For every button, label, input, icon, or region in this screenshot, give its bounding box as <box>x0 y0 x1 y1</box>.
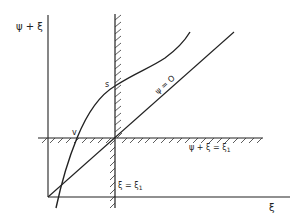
phase-diagram: ψ + ξ ξ s v ψ = O ξ = ξ1 ψ + ξ = ξ1 <box>0 0 306 220</box>
x-axis-label: ξ <box>269 203 275 213</box>
vertical-barrier-label-sub: 1 <box>139 184 143 191</box>
vertical-barrier-xi-equals-xi1 <box>110 14 121 208</box>
diagram-canvas <box>0 0 306 220</box>
horizontal-barrier-label-sub: 1 <box>227 146 231 153</box>
point-v-label: v <box>72 129 77 137</box>
y-axis-label: ψ + ξ <box>16 22 43 32</box>
vertical-barrier-label-main: ξ = ξ <box>118 181 139 190</box>
point-s-label: s <box>105 81 109 89</box>
line-psi-equals-zero <box>48 32 234 197</box>
horizontal-barrier-label-main: ψ + ξ = ξ <box>189 143 227 152</box>
horizontal-barrier-label: ψ + ξ = ξ1 <box>189 144 231 153</box>
vertical-barrier-label: ξ = ξ1 <box>118 182 143 191</box>
